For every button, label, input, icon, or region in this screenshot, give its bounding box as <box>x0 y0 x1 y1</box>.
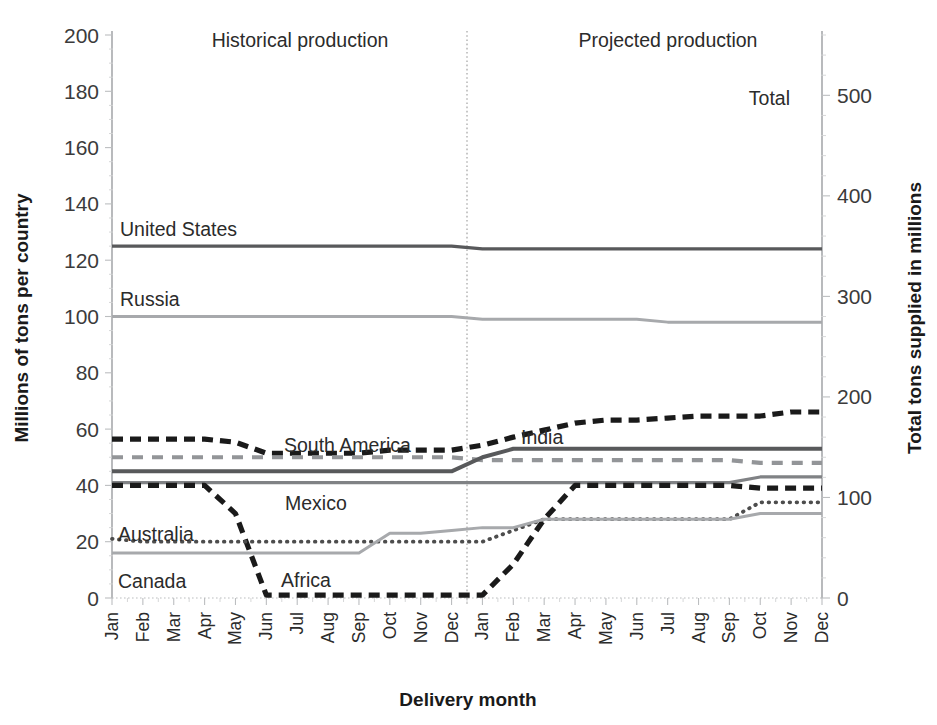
series-label-india: India <box>521 426 563 448</box>
series-label-united-states: United States <box>120 218 237 240</box>
month-tick-label: Nov <box>781 612 801 643</box>
month-tick-label: Jan <box>472 612 492 640</box>
series-label-total: Total <box>749 87 790 109</box>
left-tick-label: 80 <box>76 361 99 384</box>
month-tick-label: Mar <box>164 612 184 642</box>
series-label-mexico: Mexico <box>285 492 347 514</box>
right-axis-title: Total tons supplied in millions <box>904 182 925 454</box>
month-tick-label: Apr <box>565 612 585 639</box>
right-tick-label: 300 <box>837 285 872 308</box>
month-tick-label: Dec <box>442 612 462 643</box>
series-label-africa: Africa <box>281 569 331 591</box>
month-tick-label: Feb <box>133 612 153 642</box>
left-tick-label: 60 <box>76 418 99 441</box>
right-tick-label: 500 <box>837 84 872 107</box>
left-axis-title: Millions of tons per country <box>11 193 32 443</box>
month-tick-label: Sep <box>719 612 739 643</box>
left-tick-label: 180 <box>64 80 99 103</box>
month-tick-label: Apr <box>195 612 215 639</box>
annotation-projected: Projected production <box>579 29 758 51</box>
line-chart: 020406080100120140160180200 010020030040… <box>0 0 937 725</box>
right-tick-label: 200 <box>837 385 872 408</box>
month-tick-label: Dec <box>812 612 832 643</box>
series-label-russia: Russia <box>120 288 180 310</box>
series-label-australia: Australia <box>118 523 194 545</box>
month-tick-label: May <box>225 612 245 645</box>
chart-container: 020406080100120140160180200 010020030040… <box>0 0 937 725</box>
right-tick-label: 0 <box>837 587 849 610</box>
month-tick-label: Jan <box>102 612 122 640</box>
month-tick-label: May <box>596 612 616 645</box>
month-tick-label: Jun <box>627 612 647 640</box>
series-label-south-america: South America <box>284 434 411 456</box>
month-tick-label: Aug <box>318 612 338 643</box>
left-tick-label: 200 <box>64 24 99 47</box>
month-tick-label: Sep <box>349 612 369 643</box>
left-tick-label: 100 <box>64 305 99 328</box>
month-tick-label: Nov <box>411 612 431 643</box>
left-tick-label: 160 <box>64 136 99 159</box>
month-tick-label: Oct <box>750 612 770 639</box>
right-tick-label: 100 <box>837 486 872 509</box>
month-tick-label: Jul <box>287 612 307 634</box>
series-label-canada: Canada <box>118 570 186 592</box>
left-tick-label: 20 <box>76 530 99 553</box>
left-tick-label: 140 <box>64 192 99 215</box>
month-tick-label: Oct <box>380 612 400 639</box>
left-tick-label: 40 <box>76 474 99 497</box>
month-tick-label: Jun <box>256 612 276 640</box>
month-tick-label: Feb <box>503 612 523 642</box>
month-tick-label: Jul <box>658 612 678 634</box>
left-tick-label: 0 <box>87 587 99 610</box>
month-tick-label: Aug <box>689 612 709 643</box>
x-axis-title: Delivery month <box>399 689 536 710</box>
right-tick-label: 400 <box>837 184 872 207</box>
left-tick-label: 120 <box>64 249 99 272</box>
month-tick-label: Mar <box>534 612 554 642</box>
annotation-historical: Historical production <box>212 29 389 51</box>
